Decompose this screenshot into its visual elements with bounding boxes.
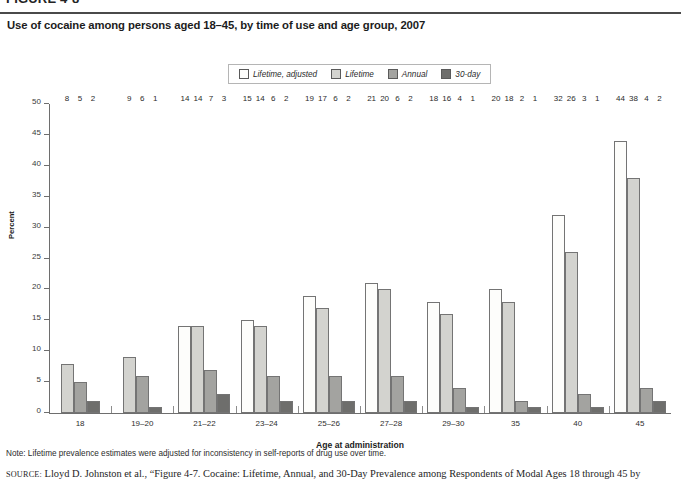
bar[interactable]: 9 <box>123 357 136 413</box>
bar[interactable]: 15 <box>241 320 254 413</box>
bar[interactable]: 6 <box>267 376 280 413</box>
bar[interactable]: 3 <box>217 394 230 413</box>
bar-value-label: 1 <box>533 95 537 103</box>
bar[interactable]: 14 <box>191 326 204 413</box>
bar[interactable]: 1 <box>591 407 604 413</box>
bar[interactable]: 2 <box>515 401 528 413</box>
x-axis-group-label: 18 <box>49 419 111 428</box>
bar[interactable]: 26 <box>565 252 578 413</box>
bar-column: 1 <box>466 104 479 413</box>
bar-column: 14 <box>254 104 267 413</box>
bar[interactable]: 20 <box>489 289 502 413</box>
bar[interactable]: 18 <box>427 302 440 413</box>
legend-entry[interactable]: 30-day <box>441 69 480 79</box>
chart-plot-area: Percent Age at administration 0510152025… <box>49 104 671 414</box>
bar[interactable]: 2 <box>653 401 666 413</box>
y-axis-tick-label: 45 <box>32 128 41 137</box>
bar-value-label: 2 <box>284 95 288 103</box>
x-axis-group-label: 40 <box>547 419 609 428</box>
bar[interactable]: 4 <box>640 388 653 413</box>
bar[interactable]: 19 <box>303 296 316 413</box>
bar-value-label: 1 <box>595 95 599 103</box>
bar-value-label: 2 <box>91 95 95 103</box>
bar-value-label: 7 <box>209 95 213 103</box>
bar-value-label: 16 <box>442 95 451 103</box>
bar-group: 181641 <box>422 104 484 413</box>
figure-title: Use of cocaine among persons aged 18–45,… <box>7 19 425 31</box>
bar[interactable]: 4 <box>453 388 466 413</box>
legend-label: Lifetime <box>345 70 374 79</box>
bar-column: 3 <box>217 104 230 413</box>
bar[interactable]: 1 <box>149 407 162 413</box>
bar-value-label: 20 <box>492 95 501 103</box>
bar[interactable]: 8 <box>61 364 74 413</box>
bar[interactable]: 20 <box>378 289 391 413</box>
bar-group-bars: 443842 <box>614 104 666 413</box>
bar-value-label: 14 <box>256 95 265 103</box>
bar[interactable]: 21 <box>365 283 378 413</box>
legend-entry[interactable]: Lifetime <box>331 69 374 79</box>
bar-column: 6 <box>136 104 149 413</box>
bar-column: 38 <box>627 104 640 413</box>
legend-swatch-icon <box>388 69 398 79</box>
bar-column: 6 <box>267 104 280 413</box>
header-rule <box>0 12 681 14</box>
bar[interactable]: 6 <box>391 376 404 413</box>
bar-value-label: 19 <box>305 95 314 103</box>
bar[interactable]: 3 <box>578 394 591 413</box>
x-axis-group-label: 23–24 <box>236 419 298 428</box>
bar-group: 201821 <box>484 104 546 413</box>
bar[interactable]: 2 <box>404 401 417 413</box>
bar-column: 14 <box>178 104 191 413</box>
bar-column: 2 <box>280 104 293 413</box>
bar[interactable]: 6 <box>329 376 342 413</box>
bar-value-label: 2 <box>346 95 350 103</box>
bar-group: 191762 <box>298 104 360 413</box>
figure-source: SOURCE: Lloyd D. Johnston et al., “Figur… <box>6 468 641 479</box>
bar[interactable]: 14 <box>254 326 267 413</box>
bar[interactable]: 2 <box>342 401 355 413</box>
bar-value-label: 38 <box>629 95 638 103</box>
bar[interactable]: 2 <box>87 401 100 413</box>
bar-column: 32 <box>552 104 565 413</box>
bar-value-label: 2 <box>408 95 412 103</box>
bar[interactable]: 32 <box>552 215 565 413</box>
bar[interactable]: 2 <box>280 401 293 413</box>
y-axis-tick-label: 35 <box>32 190 41 199</box>
bar-column: 1 <box>149 104 162 413</box>
bar-value-label: 4 <box>644 95 648 103</box>
bar-column: 2 <box>653 104 666 413</box>
bar[interactable]: 5 <box>74 382 87 413</box>
bar-column: 18 <box>427 104 440 413</box>
legend-entry[interactable]: Annual <box>388 69 428 79</box>
bar-group-bars: 322631 <box>552 104 604 413</box>
x-axis-group-label: 21–22 <box>173 419 235 428</box>
bar[interactable]: 6 <box>136 376 149 413</box>
bar-column: 6 <box>329 104 342 413</box>
bar[interactable]: 1 <box>528 407 541 413</box>
x-axis-line <box>49 413 671 414</box>
figure-number-strip: FIGURE 4-8 <box>0 0 681 12</box>
bar-value-label: 14 <box>194 95 203 103</box>
bar[interactable]: 18 <box>502 302 515 413</box>
y-axis-tick-label: 10 <box>32 344 41 353</box>
bar-column: 18 <box>502 104 515 413</box>
bar-column: 3 <box>578 104 591 413</box>
bar-column: 1 <box>591 104 604 413</box>
bar-group-bars: 201821 <box>489 104 541 413</box>
bar-value-label: 18 <box>429 95 438 103</box>
bar-value-label: 9 <box>127 95 131 103</box>
figure-note: Note: Lifetime prevalence estimates were… <box>6 449 386 458</box>
bar[interactable]: 1 <box>466 407 479 413</box>
bar[interactable]: 14 <box>178 326 191 413</box>
bar[interactable]: 16 <box>440 314 453 413</box>
x-axis-group-label: 29–30 <box>422 419 484 428</box>
bar-value-label: 1 <box>471 95 475 103</box>
bar[interactable]: 17 <box>316 308 329 413</box>
bar[interactable]: 44 <box>614 141 627 413</box>
bar[interactable]: 38 <box>627 178 640 413</box>
bar-value-label: 17 <box>318 95 327 103</box>
x-axis-group-label: 35 <box>484 419 546 428</box>
bar[interactable]: 7 <box>204 370 217 413</box>
legend-entry[interactable]: Lifetime, adjusted <box>239 69 317 79</box>
